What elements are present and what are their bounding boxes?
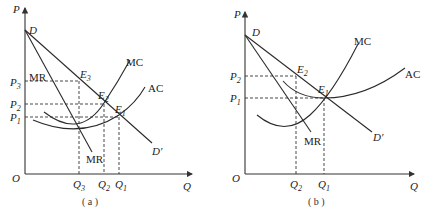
e3-label: E3 [79,68,91,83]
d-label: D [28,24,37,36]
demand-curve [25,30,152,143]
mr-bottom-label: MR [304,135,322,147]
panel-b: P Q O P2 P1 Q2 Q1 E2 E1 D D′ MR MC AC ( … [229,8,420,208]
e1-label: E1 [317,83,329,98]
p1-label: P1 [9,111,21,126]
demand-curve [245,35,372,132]
mr-curve [245,35,311,132]
y-axis-label: P [233,8,241,20]
panel-a-caption: ( a ) [82,196,98,208]
p2-label: P2 [229,70,241,85]
d-prime-label: D′ [372,131,384,143]
x-axis-label: Q [410,180,418,192]
origin-label: O [232,172,240,184]
mr-curve [25,30,92,152]
p3-label: P3 [9,76,21,91]
q3-label: Q3 [73,178,85,193]
e2-label: E2 [97,89,109,104]
mc-label: MC [354,35,371,47]
ac-label: AC [405,68,420,80]
d-prime-label: D′ [151,145,163,157]
p1-label: P1 [229,92,241,107]
ac-curve [33,87,145,129]
d-label: D [251,26,260,38]
q2-label: Q2 [290,178,302,193]
panel-a: P Q O P3 P2 P1 Q3 Q2 Q1 E3 E2 E1 D D′ MR [9,3,192,208]
mc-label: MC [126,56,143,68]
e1-label: E1 [114,103,126,118]
q2-label: Q2 [98,178,110,193]
ac-label: AC [148,82,163,94]
mr-top-label: MR [29,71,47,83]
q1-label: Q1 [115,178,127,193]
y-axis-label: P [12,3,20,15]
panel-b-caption: ( b ) [308,196,325,208]
q1-label: Q1 [318,178,330,193]
mr-bottom-label: MR [86,153,104,165]
monopolistic-competition-diagrams: P Q O P3 P2 P1 Q3 Q2 Q1 E3 E2 E1 D D′ MR [0,0,430,221]
x-axis-label: Q [183,180,191,192]
origin-label: O [12,172,20,184]
